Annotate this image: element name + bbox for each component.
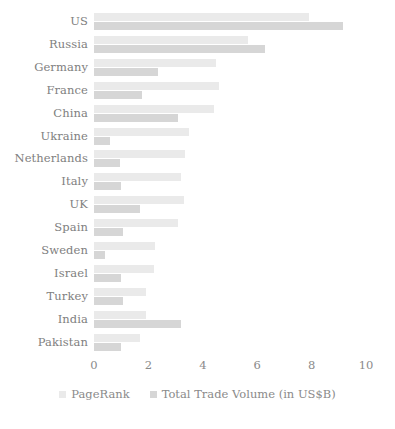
bar-group (94, 36, 366, 54)
x-tick-label-2: 4 (199, 358, 206, 372)
category-label-france: France (0, 84, 88, 96)
bar-pagerank (94, 265, 154, 273)
bar-group (94, 311, 366, 329)
value-axis: 0246810 (94, 358, 366, 374)
bar-pagerank (94, 105, 214, 113)
x-tick-label-4: 8 (308, 358, 315, 372)
bar-pagerank (94, 311, 146, 319)
bar-pagerank (94, 334, 140, 342)
bar-pagerank (94, 36, 248, 44)
legend-item-trade[interactable]: Total Trade Volume (in US$B) (150, 388, 336, 401)
x-tick-label-5: 10 (359, 358, 374, 372)
category-label-ukraine: Ukraine (0, 130, 88, 142)
chart-legend: PageRankTotal Trade Volume (in US$B) (0, 388, 395, 401)
bar-pagerank (94, 173, 181, 181)
bar-trade-volume (94, 251, 105, 259)
bar-trade-volume (94, 297, 123, 305)
bar-pagerank (94, 82, 219, 90)
bar-trade-volume (94, 343, 121, 351)
category-label-spain: Spain (0, 221, 88, 233)
category-label-israel: Israel (0, 267, 88, 279)
category-label-italy: Italy (0, 175, 88, 187)
bar-pagerank (94, 128, 189, 136)
bar-trade-volume (94, 114, 178, 122)
bar-group (94, 173, 366, 191)
category-label-india: India (0, 313, 88, 325)
bar-trade-volume (94, 22, 343, 30)
legend-swatch-icon (150, 391, 157, 398)
bar-pagerank (94, 150, 185, 158)
bar-pagerank (94, 13, 309, 21)
bar-pagerank (94, 196, 184, 204)
category-label-pakistan: Pakistan (0, 336, 88, 348)
plot-area (94, 10, 366, 355)
category-label-turkey: Turkey (0, 290, 88, 302)
bar-pagerank (94, 219, 178, 227)
bar-pagerank (94, 59, 216, 67)
x-tick-label-3: 6 (254, 358, 261, 372)
category-label-netherlands: Netherlands (0, 152, 88, 164)
bar-trade-volume (94, 68, 158, 76)
bar-group (94, 150, 366, 168)
category-axis-labels: USRussiaGermanyFranceChinaUkraineNetherl… (0, 10, 88, 355)
bar-group (94, 219, 366, 237)
bar-trade-volume (94, 45, 265, 53)
bar-group (94, 59, 366, 77)
bar-group (94, 82, 366, 100)
bar-trade-volume (94, 182, 121, 190)
legend-label: Total Trade Volume (in US$B) (162, 388, 336, 401)
bar-trade-volume (94, 228, 123, 236)
bar-group (94, 196, 366, 214)
bar-group (94, 128, 366, 146)
bar-trade-volume (94, 320, 181, 328)
category-label-uk: UK (0, 198, 88, 210)
category-label-russia: Russia (0, 38, 88, 50)
bar-trade-volume (94, 159, 120, 167)
bar-trade-volume (94, 274, 121, 282)
bar-group (94, 334, 366, 352)
legend-item-pagerank[interactable]: PageRank (59, 388, 129, 401)
bar-pagerank (94, 288, 146, 296)
x-tick-label-1: 2 (145, 358, 152, 372)
category-label-china: China (0, 107, 88, 119)
bar-group (94, 288, 366, 306)
bar-group (94, 105, 366, 123)
category-label-germany: Germany (0, 61, 88, 73)
bar-trade-volume (94, 205, 140, 213)
bar-group (94, 265, 366, 283)
bar-group (94, 13, 366, 31)
legend-label: PageRank (71, 388, 129, 401)
bar-trade-volume (94, 91, 142, 99)
bar-trade-volume (94, 137, 110, 145)
bar-chart: USRussiaGermanyFranceChinaUkraineNetherl… (0, 0, 395, 429)
bar-group (94, 242, 366, 260)
bar-pagerank (94, 242, 155, 250)
x-tick-label-0: 0 (90, 358, 97, 372)
category-label-us: US (0, 15, 88, 27)
category-label-sweden: Sweden (0, 244, 88, 256)
legend-swatch-icon (59, 391, 66, 398)
